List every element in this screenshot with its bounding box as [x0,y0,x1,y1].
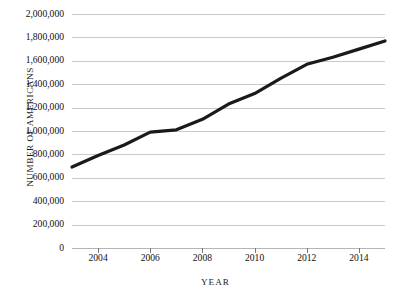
x-tick-label: 2010 [235,252,275,263]
x-tick-label: 2006 [130,252,170,263]
y-tick-label: 1,800,000 [2,31,64,42]
series-line [72,14,385,248]
plot-area [72,14,385,248]
y-tick-label: 400,000 [2,195,64,206]
x-tick-label: 2004 [78,252,118,263]
y-tick-label: 800,000 [2,148,64,159]
y-tick-label: 1,400,000 [2,78,64,89]
line-chart: NUMBER OF AMERICANS 0200,000400,000600,0… [0,0,399,304]
x-tick-label: 2012 [287,252,327,263]
y-tick-label: 600,000 [2,171,64,182]
y-tick-label: 1,600,000 [2,54,64,65]
y-tick-label: 2,000,000 [2,8,64,19]
y-tick-label: 200,000 [2,218,64,229]
y-tick-label: 1,000,000 [2,125,64,136]
y-tick-label: 0 [2,242,64,253]
y-tick-label: 1,200,000 [2,101,64,112]
gridline [72,248,385,249]
x-tick-label: 2014 [339,252,379,263]
x-axis-title: YEAR [0,277,399,287]
x-tick-label: 2008 [182,252,222,263]
